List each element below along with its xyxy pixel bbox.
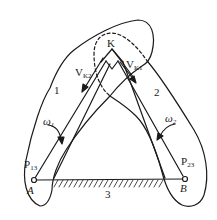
label-k: K bbox=[107, 37, 115, 49]
label-pivot-b: B bbox=[180, 182, 187, 194]
link-1-lower-right bbox=[123, 62, 165, 178]
mechanism-diagram: K VK2 VK1 1 2 3 ω1 ω2 P13 P23 A B bbox=[0, 0, 217, 220]
label-omega-2: ω2 bbox=[165, 112, 177, 126]
link-2-inner-left bbox=[54, 64, 110, 178]
label-pivot-a: A bbox=[26, 184, 34, 196]
ground-link-3 bbox=[35, 179, 185, 180]
label-link-1: 1 bbox=[54, 84, 60, 96]
label-omega-1: ω1 bbox=[43, 115, 54, 129]
label-vk1: VK1 bbox=[126, 58, 143, 72]
ground-hatching bbox=[54, 180, 163, 187]
label-link-3: 3 bbox=[105, 188, 111, 200]
vk2-arrowhead bbox=[82, 84, 88, 92]
omega-1-arrowhead bbox=[58, 137, 64, 144]
label-link-2: 2 bbox=[154, 86, 160, 98]
link-1-outline bbox=[25, 20, 154, 206]
label-vk2: VK2 bbox=[75, 66, 92, 80]
label-p23: P23 bbox=[181, 155, 195, 169]
pivot-a bbox=[32, 178, 37, 183]
label-p13: P13 bbox=[24, 158, 38, 172]
pivot-b bbox=[183, 177, 188, 182]
vk1-arrowhead bbox=[130, 76, 136, 83]
